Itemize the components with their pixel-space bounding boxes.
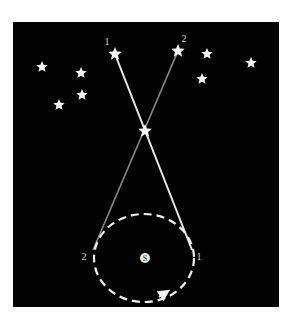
star-label: 1 (105, 36, 110, 47)
orbit-position-label: 2 (82, 251, 87, 262)
parallax-diagram: S 1221 (0, 0, 292, 325)
sun-symbol: S (143, 254, 147, 263)
orbit-position-label: 1 (197, 251, 202, 262)
sun: S (140, 253, 150, 263)
star-label: 2 (182, 33, 187, 44)
night-sky-frame (13, 22, 279, 307)
